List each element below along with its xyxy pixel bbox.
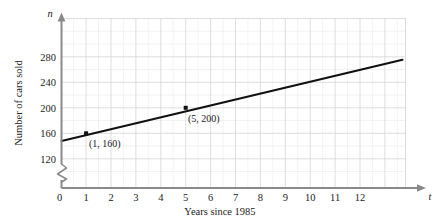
x-tick-label-1: 1: [83, 192, 88, 203]
y-tick-label-160: 160: [40, 128, 56, 139]
y-axis-break-symbol: [58, 164, 67, 182]
y-tick-labels: 280 240 200 160 120: [40, 52, 56, 165]
point-annotation-1-160: (1, 160): [89, 138, 121, 150]
y-axis: [58, 13, 66, 189]
x-tick-label-10: 10: [305, 192, 316, 203]
x-tick-label-2: 2: [108, 192, 113, 203]
cars-sold-line-chart: 280 240 200 160 120 0 1 2 3 4 5 6 7 8 9 …: [0, 0, 441, 224]
data-line-cars-sold: [62, 60, 403, 141]
data-point-marker-1-160: [84, 131, 88, 135]
y-tick-label-240: 240: [40, 77, 56, 88]
grid-minor-horizontal: [62, 31, 407, 171]
y-tick-label-200: 200: [40, 103, 56, 114]
x-axis: [62, 184, 427, 192]
y-axis-variable-label: n: [47, 8, 52, 19]
x-tick-label-6: 6: [208, 192, 213, 203]
x-tick-label-8: 8: [258, 192, 263, 203]
x-tick-label-4: 4: [158, 192, 164, 203]
chart-plot-area: 280 240 200 160 120 0 1 2 3 4 5 6 7 8 9 …: [0, 0, 441, 224]
x-tick-label-0: 0: [57, 192, 62, 203]
x-axis-variable-label: t: [429, 191, 433, 202]
x-tick-label-9: 9: [283, 192, 288, 203]
data-point-marker-5-200: [184, 106, 188, 110]
x-tick-label-7: 7: [233, 192, 238, 203]
x-tick-label-3: 3: [133, 192, 138, 203]
y-tick-label-280: 280: [40, 52, 56, 63]
x-axis-title: Years since 1985: [184, 206, 255, 217]
point-annotation-5-200: (5, 200): [188, 113, 220, 125]
x-tick-label-12: 12: [355, 192, 366, 203]
y-tick-label-120: 120: [40, 154, 56, 165]
grid-major-vertical: [86, 18, 405, 188]
x-tick-label-11: 11: [330, 192, 340, 203]
x-tick-labels: 0 1 2 3 4 5 6 7 8 9 10 11 12: [57, 192, 365, 203]
x-tick-label-5: 5: [183, 192, 188, 203]
y-axis-title: Number of cars sold: [13, 60, 24, 146]
